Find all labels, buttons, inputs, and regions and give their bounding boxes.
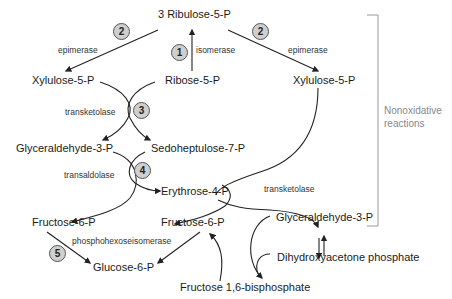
step-badge-2-left: 2: [113, 23, 130, 40]
enzyme-transaldolase: transaldolase: [64, 170, 115, 180]
step-badge-3: 3: [133, 102, 150, 119]
node-erythrose-4-p: Erythrose-4-P: [161, 185, 229, 197]
node-ribose-5-p: Ribose-5-P: [165, 74, 220, 86]
node-xylulose-5-p-left: Xylulose-5-P: [32, 74, 94, 86]
node-ribulose-5-p: 3 Ribulose-5-P: [158, 8, 231, 20]
enzyme-epimerase-right: epimerase: [288, 45, 328, 55]
node-glyceraldehyde-3-p-right: Glyceraldehyde-3-P: [276, 211, 373, 223]
arrow-dhap-fbp: [257, 254, 270, 274]
enzyme-phosphohexoseisomerase: phosphohexoseisomerase: [72, 236, 171, 246]
bracket-label-line2: reactions: [384, 117, 425, 130]
node-glyceraldehyde-3-p-left: Glyceraldehyde-3-P: [16, 142, 113, 154]
enzyme-transketolase-step3: transketolase: [65, 107, 116, 117]
pathway-diagram: 3 Ribulose-5-P Xylulose-5-P Ribose-5-P X…: [0, 0, 452, 299]
arrow-g3p-fbp: [251, 216, 270, 278]
bracket-label-line1: Nonoxidative: [384, 104, 442, 117]
step-badge-2-right: 2: [252, 23, 269, 40]
nonoxidative-bracket: [367, 15, 378, 226]
arrow-ta4-a: [72, 152, 136, 222]
step-badge-4: 4: [134, 162, 151, 179]
step-badge-5: 5: [49, 245, 66, 262]
node-xylulose-5-p-right: Xylulose-5-P: [293, 74, 355, 86]
node-dihydroxyacetone-phosphate: Dihydroxyacetone phosphate: [277, 251, 419, 263]
node-fructose-6-p-left: Fructose-6-P: [32, 216, 96, 228]
enzyme-transketolase-second: transketolase: [264, 184, 315, 194]
arrow-fbp-fructose: [210, 234, 222, 281]
node-fructose-6-p-center: Fructose-6-P: [161, 216, 225, 228]
node-glucose-6-p: Glucose-6-P: [93, 261, 154, 273]
enzyme-epimerase-left: epimerase: [58, 45, 98, 55]
enzyme-isomerase: isomerase: [196, 45, 235, 55]
node-sedoheptulose-7-p: Sedoheptulose-7-P: [151, 142, 245, 154]
node-fructose-bisphosphate: Fructose 1,6-bisphosphate: [180, 281, 310, 293]
step-badge-1: 1: [171, 44, 188, 61]
